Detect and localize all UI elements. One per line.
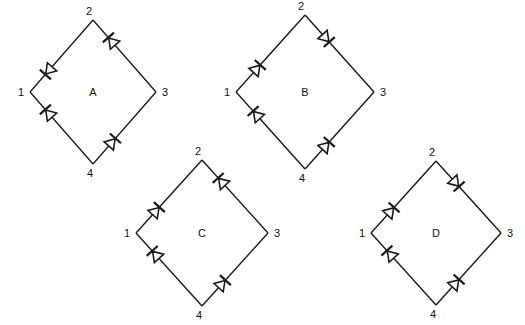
- node-label-D-left: 1: [359, 227, 365, 239]
- wire-B-bottom-right: [305, 92, 374, 169]
- wire-C-left-bottom: [136, 233, 202, 306]
- diode-bridge-diagram: 2134A2134B2134C2134D: [0, 0, 525, 325]
- wire-A-top-right: [93, 20, 156, 92]
- figure-A: 2134A: [18, 5, 168, 179]
- figure-B: 2134B: [224, 0, 386, 184]
- figure-label-B: B: [301, 86, 308, 98]
- wire-D-left-top: [371, 161, 436, 233]
- wire-A-left-bottom: [30, 92, 93, 164]
- node-label-B-left: 1: [224, 86, 230, 98]
- node-label-C-top: 2: [195, 145, 201, 157]
- node-label-A-top: 2: [86, 5, 92, 17]
- node-label-B-bottom: 4: [299, 172, 305, 184]
- wire-D-top-right: [436, 161, 501, 233]
- figure-label-A: A: [89, 86, 97, 98]
- node-label-B-right: 3: [380, 86, 386, 98]
- figure-label-D: D: [432, 227, 440, 239]
- wire-B-left-top: [236, 15, 305, 92]
- figure-label-C: C: [198, 227, 206, 239]
- wire-A-bottom-right: [93, 92, 156, 164]
- figure-C: 2134C: [124, 145, 280, 321]
- node-label-D-right: 3: [507, 227, 513, 239]
- wire-D-bottom-right: [436, 233, 501, 305]
- node-label-C-right: 3: [274, 227, 280, 239]
- node-label-D-bottom: 4: [430, 308, 436, 320]
- wire-C-top-right: [202, 160, 268, 233]
- wire-A-left-top: [30, 20, 93, 92]
- node-label-A-bottom: 4: [87, 167, 93, 179]
- node-label-C-left: 1: [124, 227, 130, 239]
- node-label-C-bottom: 4: [196, 309, 202, 321]
- node-label-B-top: 2: [298, 0, 304, 12]
- node-label-A-left: 1: [18, 86, 24, 98]
- wire-C-bottom-right: [202, 233, 268, 306]
- wire-B-left-bottom: [236, 92, 305, 169]
- node-label-A-right: 3: [162, 86, 168, 98]
- wire-B-top-right: [305, 15, 374, 92]
- node-label-D-top: 2: [429, 146, 435, 158]
- wire-D-left-bottom: [371, 233, 436, 305]
- figure-D: 2134D: [359, 146, 513, 320]
- wire-C-left-top: [136, 160, 202, 233]
